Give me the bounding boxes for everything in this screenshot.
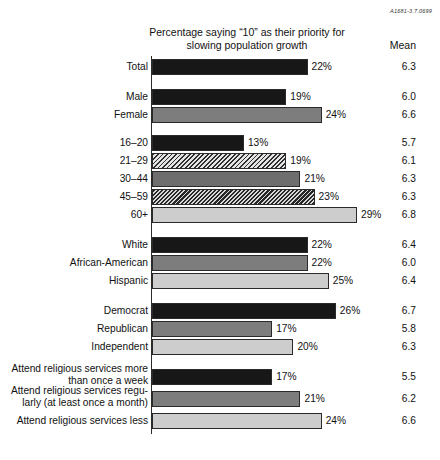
bar: [152, 255, 308, 271]
bar: [152, 153, 286, 169]
chart-row: 16–2013%5.7: [0, 134, 440, 152]
bar: [152, 369, 272, 385]
bar-value-label: 21%: [304, 393, 324, 404]
mean-value: 6.0: [372, 91, 416, 102]
chart-row: 21–2919%6.1: [0, 152, 440, 170]
chart-row: Independent20%6.3: [0, 338, 440, 356]
mean-value: 6.2: [372, 393, 416, 404]
bar-value-label: 22%: [312, 61, 332, 72]
row-category-label: Female: [0, 109, 148, 121]
bar: [152, 207, 357, 223]
chart-row: White22%6.4: [0, 236, 440, 254]
bar: [152, 189, 315, 205]
mean-value: 6.8: [372, 209, 416, 220]
chart-row: Attend religious services more than once…: [0, 368, 440, 386]
bar-value-label: 23%: [319, 191, 339, 202]
bar-value-label: 25%: [333, 275, 353, 286]
row-category-label: 21–29: [0, 155, 148, 167]
bar-value-label: 19%: [290, 91, 310, 102]
chart-row: African-American22%6.0: [0, 254, 440, 272]
population-growth-priority-chart: A1681-3.7.0699 Percentage saying “10” as…: [0, 0, 440, 460]
bar-value-label: 21%: [304, 173, 324, 184]
bar: [152, 273, 329, 289]
chart-row: 60+29%6.8: [0, 206, 440, 224]
row-category-label: Republican: [0, 323, 148, 335]
row-category-label: 60+: [0, 209, 148, 221]
bar: [152, 321, 272, 337]
bar: [152, 89, 286, 105]
bar: [152, 59, 308, 75]
mean-value: 6.0: [372, 257, 416, 268]
row-category-label: 30–44: [0, 173, 148, 185]
mean-value: 6.3: [372, 191, 416, 202]
mean-value: 5.8: [372, 323, 416, 334]
bar-value-label: 20%: [297, 341, 317, 352]
chart-row: Republican17%5.8: [0, 320, 440, 338]
bar-value-label: 24%: [326, 109, 346, 120]
chart-row: Democrat26%6.7: [0, 302, 440, 320]
mean-value: 6.1: [372, 155, 416, 166]
chart-row: Female24%6.6: [0, 106, 440, 124]
mean-value: 6.3: [372, 61, 416, 72]
mean-value: 6.3: [372, 173, 416, 184]
row-category-label: Attend religious services less: [0, 415, 148, 427]
bar-value-label: 22%: [312, 239, 332, 250]
row-category-label: White: [0, 239, 148, 251]
bar: [152, 391, 300, 407]
bar: [152, 339, 293, 355]
chart-row: Total22%6.3: [0, 58, 440, 76]
row-category-label: Hispanic: [0, 275, 148, 287]
mean-value: 6.7: [372, 305, 416, 316]
mean-value: 6.4: [372, 275, 416, 286]
row-category-label: Attend religious services more than once…: [0, 363, 148, 386]
bar-rows-container: Total22%6.3Male19%6.0Female24%6.616–2013…: [0, 0, 440, 460]
bar: [152, 413, 322, 429]
row-category-label: Independent: [0, 341, 148, 353]
row-category-label: Attend religious services regu- larly (a…: [0, 385, 148, 408]
mean-value: 5.5: [372, 371, 416, 382]
bar-value-label: 24%: [326, 415, 346, 426]
chart-row: 30–4421%6.3: [0, 170, 440, 188]
mean-value: 6.4: [372, 239, 416, 250]
chart-row: 45–5923%6.3: [0, 188, 440, 206]
mean-value: 6.6: [372, 109, 416, 120]
bar-value-label: 17%: [276, 371, 296, 382]
mean-value: 6.3: [372, 341, 416, 352]
bar-value-label: 26%: [340, 305, 360, 316]
bar-value-label: 17%: [276, 323, 296, 334]
bar-value-label: 13%: [248, 137, 268, 148]
row-category-label: African-American: [0, 257, 148, 269]
bar: [152, 237, 308, 253]
row-category-label: 45–59: [0, 191, 148, 203]
mean-value: 5.7: [372, 137, 416, 148]
mean-value: 6.6: [372, 415, 416, 426]
chart-row: Hispanic25%6.4: [0, 272, 440, 290]
bar: [152, 107, 322, 123]
row-category-label: Total: [0, 61, 148, 73]
row-category-label: Male: [0, 91, 148, 103]
chart-row: Attend religious services less24%6.6: [0, 412, 440, 430]
bar-value-label: 19%: [290, 155, 310, 166]
row-category-label: 16–20: [0, 137, 148, 149]
bar: [152, 303, 336, 319]
chart-row: Male19%6.0: [0, 88, 440, 106]
bar: [152, 171, 300, 187]
chart-row: Attend religious services regu- larly (a…: [0, 390, 440, 408]
row-category-label: Democrat: [0, 305, 148, 317]
bar-value-label: 22%: [312, 257, 332, 268]
bar: [152, 135, 244, 151]
